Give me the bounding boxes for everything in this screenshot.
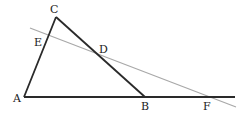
- side-CB: [56, 17, 145, 97]
- label-A: A: [12, 92, 22, 105]
- side-AC: [24, 17, 56, 97]
- label-D: D: [99, 43, 108, 56]
- label-F: F: [203, 100, 211, 113]
- label-B: B: [141, 100, 149, 113]
- transversal-line-EDF: [30, 28, 236, 107]
- geometry-diagram: C E D A B F: [0, 0, 248, 118]
- label-E: E: [34, 36, 42, 49]
- label-C: C: [50, 3, 58, 16]
